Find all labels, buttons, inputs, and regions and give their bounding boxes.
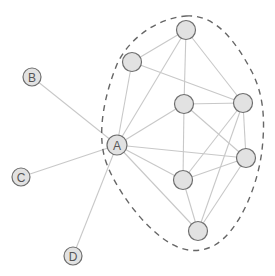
edge-n3-n5 [184,104,246,158]
node-circle [237,149,256,168]
edge-A-D [73,145,117,256]
node-n2 [123,53,142,72]
node-B: B [23,68,41,86]
node-label: A [113,139,121,153]
node-n1 [177,21,196,40]
node-n6 [174,171,193,190]
nodes-layer: ABCD [12,21,256,266]
node-label: C [17,171,26,185]
node-circle [189,222,208,241]
network-graph-svg: ABCD [0,0,275,276]
node-circle [177,21,196,40]
node-circle [174,171,193,190]
node-n3 [175,95,194,114]
network-diagram: ABCD [0,0,275,276]
node-n5 [237,149,256,168]
node-D: D [64,247,82,265]
edge-n3-n6 [183,104,184,180]
node-label: B [28,71,36,85]
edge-n1-n3 [184,30,186,104]
node-n4 [234,94,253,113]
node-circle [175,95,194,114]
node-circle [234,94,253,113]
node-A: A [107,135,127,155]
node-label: D [69,250,78,264]
edge-n4-n6 [183,103,243,180]
node-C: C [12,168,30,186]
edge-A-n5 [117,145,246,158]
node-circle [123,53,142,72]
node-n7 [189,222,208,241]
edge-n3-A [117,104,184,145]
